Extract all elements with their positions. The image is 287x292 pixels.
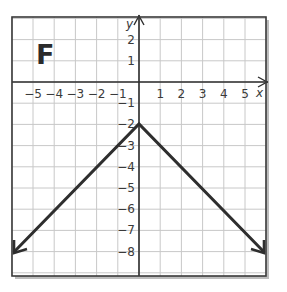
- x-tick-label: 5: [241, 87, 249, 101]
- x-tick-label: 3: [199, 87, 207, 101]
- y-tick-label: −1: [117, 96, 135, 110]
- x-axis-label: x: [255, 86, 264, 100]
- coordinate-graph: −5−4−3−2−112345 21−1−2−3−4−5−6−7−8 x y F: [0, 0, 287, 292]
- y-tick-label: −7: [117, 223, 135, 237]
- x-tick-label: −3: [67, 87, 85, 101]
- y-tick-label: −4: [117, 160, 135, 174]
- panel-label: F: [36, 39, 54, 70]
- x-tick-label: 2: [178, 87, 186, 101]
- y-tick-label: 1: [127, 54, 135, 68]
- x-tick-label: −4: [45, 87, 63, 101]
- x-tick-label: −5: [24, 87, 42, 101]
- y-axis-label: y: [125, 17, 134, 31]
- y-tick-label: −6: [117, 202, 135, 216]
- x-tick-label: 4: [220, 87, 228, 101]
- y-tick-label: 2: [127, 33, 135, 47]
- y-tick-label: −5: [117, 181, 135, 195]
- y-tick-label: −8: [117, 245, 135, 259]
- x-tick-label: −2: [88, 87, 106, 101]
- x-tick-label: 1: [156, 87, 164, 101]
